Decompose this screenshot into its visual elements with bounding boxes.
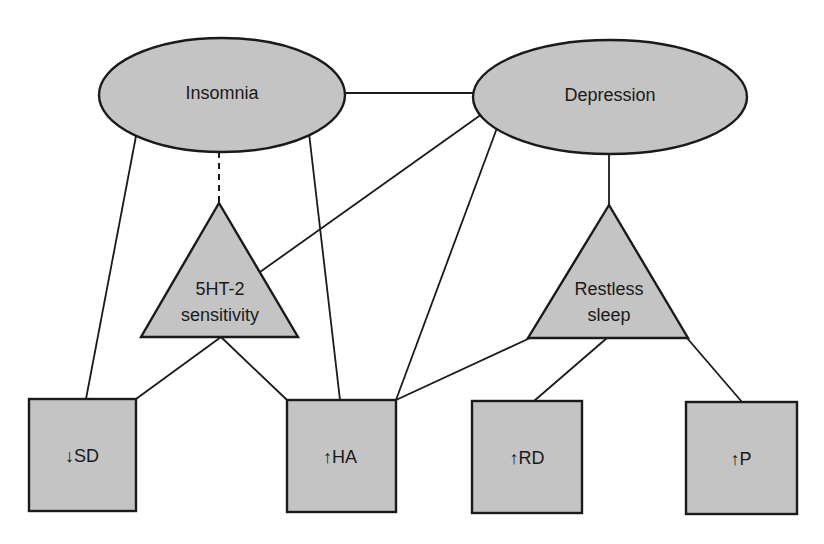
edge-5ht2-sd	[136, 337, 221, 399]
node-restless-sleep: Restless sleep	[528, 205, 688, 338]
5ht2-label-line2: sensitivity	[181, 305, 259, 325]
restless-label-line2: sleep	[587, 305, 630, 325]
depression-label: Depression	[564, 85, 655, 105]
edge-5ht2-ha	[221, 337, 287, 400]
edge-restless-rd	[534, 338, 607, 401]
relationship-diagram: Insomnia Depression 5HT-2 sensitivity Re…	[0, 0, 824, 544]
edge-insomnia-ha	[309, 133, 340, 400]
node-depression: Depression	[473, 40, 747, 154]
rd-label: ↑RD	[510, 448, 545, 468]
p-label: ↑P	[730, 449, 751, 469]
sd-label: ↓SD	[65, 446, 99, 466]
5ht2-label-line1: 5HT-2	[195, 279, 244, 299]
node-rd: ↑RD	[472, 401, 582, 513]
node-sd: ↓SD	[29, 399, 136, 511]
edge-depression-ha	[396, 128, 497, 400]
restless-label-line1: Restless	[574, 279, 643, 299]
node-ha: ↑HA	[287, 400, 396, 512]
node-5ht2-sensitivity: 5HT-2 sensitivity	[141, 203, 298, 337]
edge-insomnia-sd	[86, 136, 136, 399]
node-insomnia: Insomnia	[99, 38, 345, 152]
insomnia-label: Insomnia	[185, 83, 259, 103]
node-p: ↑P	[686, 402, 797, 514]
edge-restless-p	[687, 338, 742, 402]
ha-label: ↑HA	[323, 447, 357, 467]
